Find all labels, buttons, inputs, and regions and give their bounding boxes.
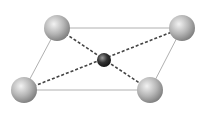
- corner-atom-top-right: [169, 15, 195, 41]
- center-atom: [97, 53, 111, 67]
- corner-atom-top-left: [44, 15, 70, 41]
- corner-atom-bottom-left: [11, 77, 37, 103]
- corner-atom-bottom-right: [137, 77, 163, 103]
- unit-cell-diagram: [0, 0, 203, 114]
